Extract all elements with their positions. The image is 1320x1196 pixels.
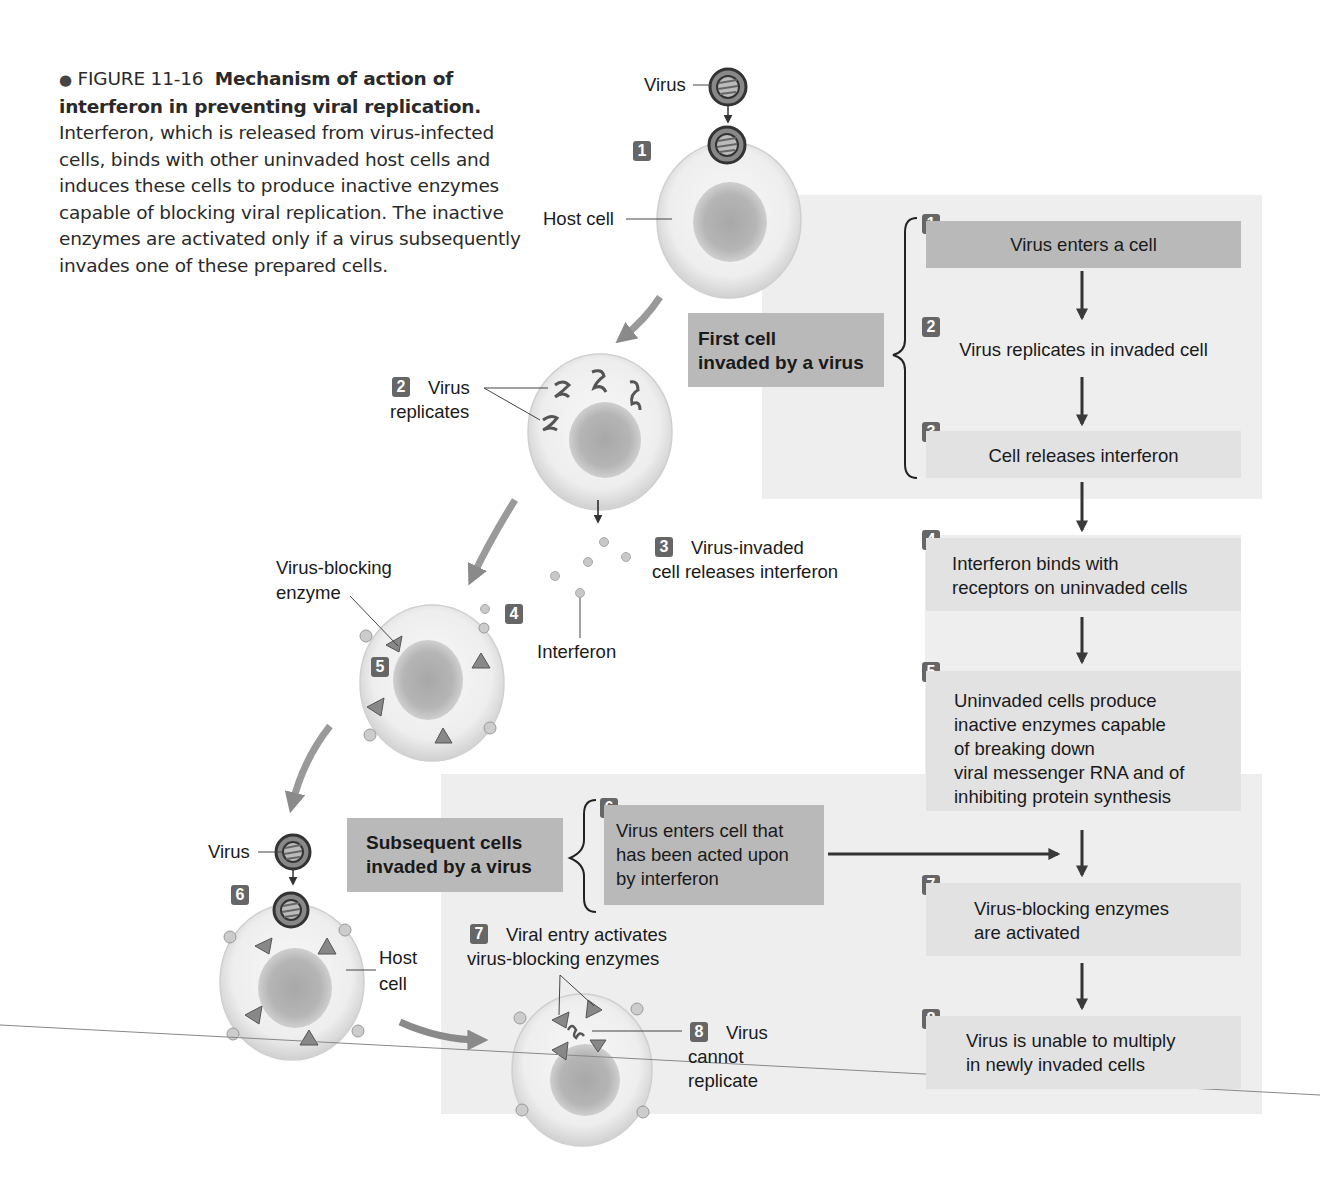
label-viral-entry-2: virus-blocking enzymes — [467, 947, 659, 971]
step-7-line1: Virus-blocking enzymes — [974, 897, 1169, 921]
brace-first — [893, 218, 917, 478]
virus-icon-top — [710, 69, 746, 105]
step-5-line4: viral messenger RNA and of — [954, 761, 1184, 785]
step-7-box: Virus-blocking enzymes are activated — [926, 883, 1241, 956]
label-cannot-1: Virus — [726, 1021, 768, 1045]
step-6-box: Virus enters cell that has been acted up… — [604, 805, 824, 905]
brace-subsequent — [570, 800, 596, 912]
step-5-line1: Uninvaded cells produce — [954, 689, 1157, 713]
label-host-cell-top: Host cell — [543, 207, 614, 231]
step-1-text: Virus enters a cell — [926, 233, 1241, 257]
step-6-line3: by interferon — [616, 867, 719, 891]
step-4-box: Interferon binds with receptors on uninv… — [926, 538, 1241, 611]
step-3-box: Cell releases interferon — [926, 431, 1241, 478]
step-5-box: Uninvaded cells produce inactive enzymes… — [926, 671, 1241, 811]
step-7-line2: are activated — [974, 921, 1080, 945]
virus-icon-entering — [709, 127, 745, 163]
step-8-line1: Virus is unable to multiply — [966, 1029, 1175, 1053]
badge-1-illustration: 1 — [633, 141, 651, 161]
label-virus-invaded-1: Virus-invaded — [691, 536, 804, 560]
group-first-line2: invaded by a virus — [698, 351, 864, 375]
label-cannot-2: cannot — [688, 1045, 744, 1069]
step-6-line1: Virus enters cell that — [616, 819, 783, 843]
host-cell-2 — [528, 354, 672, 510]
step-8-line2: in newly invaded cells — [966, 1053, 1145, 1077]
label-interferon: Interferon — [537, 640, 616, 664]
label-cannot-3: replicate — [688, 1069, 758, 1093]
group-subsequent-cells: Subsequent cells invaded by a virus — [347, 818, 563, 892]
step-2-badge: 2 — [922, 317, 940, 337]
badge-7-illustration: 7 — [470, 924, 488, 944]
group-first-cell: First cell invaded by a virus — [688, 313, 884, 387]
step-5-line5: inhibiting protein synthesis — [954, 785, 1171, 809]
label-virus-blocking-2: enzyme — [276, 581, 341, 605]
host-cell-1 — [657, 142, 801, 298]
step-4-line2: receptors on uninvaded cells — [952, 576, 1188, 600]
host-cell-blocked — [512, 994, 652, 1146]
label-virus-blocking-1: Virus-blocking — [276, 556, 392, 580]
virus-icon-entering-bottom — [274, 893, 308, 927]
step-3-text: Cell releases interferon — [926, 444, 1241, 468]
label-host-cell-bottom-2: cell — [379, 972, 407, 996]
badge-3-illustration: 3 — [655, 537, 673, 557]
badge-4-illustration: 4 — [505, 604, 523, 624]
label-host-cell-bottom-1: Host — [379, 946, 417, 970]
step-4-line1: Interferon binds with — [952, 552, 1119, 576]
label-virus-top: Virus — [644, 73, 686, 97]
group-subsequent-line1: Subsequent cells — [366, 831, 522, 855]
group-subsequent-line2: invaded by a virus — [366, 855, 532, 879]
step-6-line2: has been acted upon — [616, 843, 789, 867]
badge-2-illustration: 2 — [392, 377, 410, 397]
step-5-line2: inactive enzymes capable — [954, 713, 1166, 737]
group-first-line1: First cell — [698, 327, 776, 351]
label-virus-invaded-2: cell releases interferon — [652, 560, 838, 584]
label-virus-bottom: Virus — [208, 840, 250, 864]
label-virus-replicates-1: Virus — [428, 376, 470, 400]
badge-5-illustration: 5 — [371, 657, 389, 677]
label-viral-entry-1: Viral entry activates — [506, 923, 667, 947]
label-virus-replicates-2: replicates — [390, 400, 469, 424]
step-8-box: Virus is unable to multiply in newly inv… — [926, 1016, 1241, 1089]
step-1-box: Virus enters a cell — [926, 221, 1241, 268]
step-5-line3: of breaking down — [954, 737, 1095, 761]
interferon-molecules — [481, 538, 631, 614]
badge-6-illustration: 6 — [231, 885, 249, 905]
step-2-text: Virus replicates in invaded cell — [926, 338, 1241, 362]
badge-8-illustration: 8 — [690, 1022, 708, 1042]
